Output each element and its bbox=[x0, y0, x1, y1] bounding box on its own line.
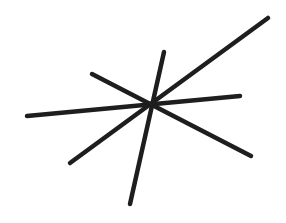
line-c bbox=[130, 52, 164, 204]
intersecting-lines-figure bbox=[0, 0, 286, 223]
line-a bbox=[27, 96, 240, 116]
lines-group bbox=[27, 18, 268, 204]
diagram-canvas: Four intersecting straight line segments… bbox=[0, 0, 286, 223]
line-b bbox=[70, 18, 268, 163]
